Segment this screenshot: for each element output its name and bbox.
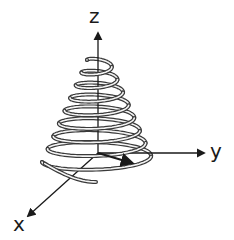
helix-diagram-canvas [0, 0, 234, 240]
x-axis [28, 153, 98, 216]
y-axis-label: y [210, 141, 222, 161]
x-axis-label: x [13, 214, 25, 234]
conical-helix-diagram: z y x [0, 0, 234, 240]
z-axis-label: z [89, 6, 100, 26]
